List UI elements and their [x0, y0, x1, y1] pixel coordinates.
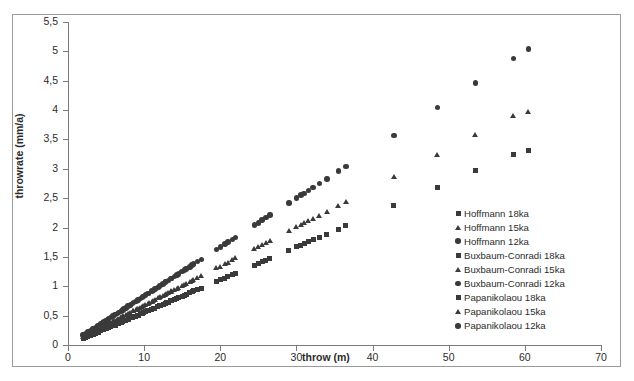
legend-item[interactable]: Papanikolaou 18ka — [452, 291, 612, 305]
legend-item-label: Buxbaum-Conradi 12ka — [464, 278, 565, 289]
data-point — [336, 227, 341, 232]
y-tick-label: 0 — [18, 339, 58, 349]
data-point — [286, 228, 292, 233]
data-point — [157, 303, 162, 308]
data-point — [336, 168, 342, 174]
data-point — [199, 257, 205, 263]
legend-item-label: Papanikolaou 15ka — [464, 306, 546, 317]
data-point — [286, 200, 292, 206]
data-point — [163, 301, 168, 306]
data-point — [251, 246, 257, 251]
data-point — [213, 265, 219, 270]
x-tick-label: 10 — [124, 352, 164, 363]
data-point — [473, 168, 478, 173]
data-point — [140, 311, 145, 316]
data-point — [391, 203, 396, 208]
data-point — [391, 174, 397, 179]
legend-item-label: Papanikolaou 18ka — [464, 292, 546, 303]
chart-legend: Hoffmann 18kaHoffmann 15kaHoffmann 12kaB… — [452, 206, 612, 333]
data-point — [151, 288, 157, 294]
legend-item-label: Hoffmann 12ka — [464, 236, 529, 247]
data-point — [145, 291, 151, 297]
data-point — [189, 262, 195, 268]
data-point — [510, 113, 516, 118]
data-point — [222, 276, 227, 281]
legend-item-label: Buxbaum-Conradi 15ka — [464, 264, 565, 275]
y-axis-title: throwrate (mm/a) — [13, 91, 25, 221]
data-point — [263, 258, 268, 263]
data-point — [190, 289, 195, 294]
data-point — [317, 235, 322, 240]
y-tick-label: 2 — [18, 222, 58, 232]
legend-item[interactable]: Hoffmann 18ka — [452, 206, 612, 220]
data-point — [199, 286, 204, 291]
data-point — [174, 296, 179, 301]
data-point — [473, 80, 479, 86]
data-point — [472, 132, 478, 137]
data-point — [230, 272, 235, 277]
circle-marker-icon — [452, 281, 464, 287]
data-point — [222, 261, 228, 266]
circle-marker-icon — [452, 323, 464, 329]
data-point — [120, 319, 125, 324]
data-point — [230, 237, 236, 243]
legend-item-label: Buxbaum-Conradi 18ka — [464, 250, 565, 261]
data-point — [168, 276, 174, 282]
data-point — [151, 306, 156, 311]
data-point — [311, 237, 316, 242]
x-tick-label: 60 — [505, 352, 545, 363]
legend-item[interactable]: Buxbaum-Conradi 15ka — [452, 262, 612, 276]
y-tick-label: 5,5 — [18, 16, 58, 26]
data-point — [343, 164, 349, 170]
data-point — [145, 308, 150, 313]
scatter-chart: 00,511,522,533,544,555,5 010203040506070… — [0, 0, 634, 381]
data-point — [343, 199, 349, 204]
triangle-marker-icon — [452, 267, 464, 272]
data-point — [135, 313, 140, 318]
legend-item[interactable]: Papanikolaou 12ka — [452, 319, 612, 333]
data-point — [181, 282, 187, 287]
legend-item[interactable]: Buxbaum-Conradi 12ka — [452, 276, 612, 290]
data-point — [252, 222, 258, 228]
data-point — [174, 286, 180, 291]
square-marker-icon — [452, 211, 464, 216]
x-axis-title: throw (m) — [302, 351, 350, 363]
x-tick-label: 20 — [200, 352, 240, 363]
y-tick-label: 5 — [18, 45, 58, 55]
triangle-marker-icon — [452, 309, 464, 314]
data-point — [298, 222, 304, 227]
data-point — [168, 289, 174, 294]
x-tick-label: 40 — [353, 352, 393, 363]
data-point — [391, 133, 397, 139]
data-point — [115, 321, 120, 326]
data-point — [435, 185, 440, 190]
circle-marker-icon — [452, 238, 464, 244]
y-tick-label: 0,5 — [18, 310, 58, 320]
legend-item[interactable]: Papanikolaou 15ka — [452, 305, 612, 319]
legend-item[interactable]: Hoffmann 15ka — [452, 220, 612, 234]
data-point — [214, 279, 219, 284]
data-point — [310, 185, 316, 191]
data-point — [222, 241, 228, 247]
legend-item[interactable]: Buxbaum-Conradi 18ka — [452, 248, 612, 262]
data-point — [324, 232, 329, 237]
data-point — [310, 216, 316, 221]
data-point — [324, 209, 330, 214]
data-point — [157, 284, 163, 290]
y-tick-label: 4,5 — [18, 75, 58, 85]
data-point — [435, 105, 441, 111]
legend-item-label: Hoffmann 15ka — [464, 222, 529, 233]
data-point — [335, 203, 341, 208]
data-point — [263, 215, 269, 221]
square-marker-icon — [452, 253, 464, 258]
legend-item[interactable]: Hoffmann 12ka — [452, 234, 612, 248]
data-point — [156, 295, 162, 300]
data-point — [298, 192, 304, 198]
data-point — [316, 213, 322, 218]
data-point — [182, 267, 188, 273]
triangle-marker-icon — [452, 225, 464, 230]
data-point — [83, 331, 89, 337]
data-point — [298, 243, 303, 248]
data-point — [150, 298, 156, 303]
legend-item-label: Papanikolaou 12ka — [464, 320, 546, 331]
